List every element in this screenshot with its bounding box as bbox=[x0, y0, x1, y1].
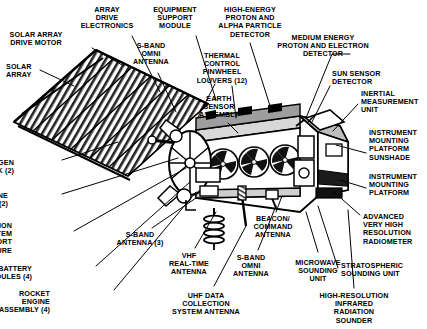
label-uhf-data-collection-system-antenna: UHF DATA COLLECTION SYSTEM ANTENNA bbox=[172, 292, 240, 317]
label-s-band-omni-antenna-top: S-BAND OMNI ANTENNA bbox=[133, 42, 169, 67]
label-s-band-antenna-3: S-BAND ANTENNA (3) bbox=[117, 231, 164, 247]
label-rocket-engine-assembly: ROCKET ENGINE ASSEMBLY (4) bbox=[0, 290, 50, 315]
label-hydrazine-tank: HYDRAZINE TANK (2) bbox=[0, 192, 8, 208]
leader-high-energy-proton bbox=[250, 43, 272, 112]
label-solar-array-drive-motor: SOLAR ARRAY DRIVE MOTOR bbox=[10, 31, 63, 47]
label-reaction-system-support-structure: REACTION SYSTEM SUPPORT STRUCTURE bbox=[0, 222, 12, 255]
label-sun-sensor-detector: SUN SENSOR DETECTOR bbox=[332, 70, 381, 86]
leader-avhrr bbox=[334, 192, 360, 215]
leader-s-band-3 bbox=[152, 198, 196, 228]
vhf-real-time-antenna-helix bbox=[204, 208, 224, 250]
label-earth-sensor-assembly: EARTH SENSOR ASSEMBLY bbox=[199, 95, 239, 120]
label-solar-array: SOLAR ARRAY bbox=[6, 63, 32, 79]
label-battery-modules: BATTERY MODULES (4) bbox=[0, 265, 32, 281]
label-instrument-mounting-platform: INSTRUMENT MOUNTING PLATFORM bbox=[369, 173, 417, 198]
label-medium-energy-proton-electron-detector: MEDIUM ENERGY PROTON AND ELECTRON DETECT… bbox=[277, 34, 368, 59]
label-high-energy-proton-alpha-particle-detector: HIGH-ENERGY PROTON AND ALPHA PARTICLE DE… bbox=[218, 6, 281, 39]
label-microwave-sounding-unit: MICROWAVE SOUNDING UNIT bbox=[295, 259, 341, 284]
label-advanced-very-high-resolution-radiometer: ADVANCED VERY HIGH RESOLUTION RADIOMETER bbox=[363, 213, 412, 246]
label-nitrogen-tank: NITROGEN TANK (2) bbox=[0, 159, 14, 175]
satellite-diagram: SOLAR ARRAY DRIVE MOTORARRAY DRIVE ELECT… bbox=[0, 0, 427, 329]
label-equipment-support-module: EQUIPMENT SUPPORT MODULE bbox=[153, 6, 197, 31]
label-beacon-command-antenna: BEACON/ COMMAND ANTENNA bbox=[253, 215, 292, 240]
leader-msu bbox=[306, 212, 318, 252]
label-stratospheric-sounding-unit: STRATOSPHERIC SOUNDING UNIT bbox=[341, 262, 403, 278]
label-thermal-control-pinwheel-louvers: THERMAL CONTROL PINWHEEL LOUVERS (12) bbox=[197, 52, 248, 85]
label-high-resolution-infrared-radiation-sounder: HIGH-RESOLUTION INFRARED RADIATION SOUND… bbox=[320, 292, 389, 325]
label-instrument-mounting-platform-sunshade: INSTRUMENT MOUNTING PLATFORM SUNSHADE bbox=[369, 129, 417, 162]
label-inertial-measurement-unit: INERTIAL MEASUREMENT UNIT bbox=[361, 90, 418, 115]
label-vhf-real-time-antenna: VHF REAL-TIME ANTENNA bbox=[169, 252, 209, 277]
label-s-band-omni-antenna-bottom: S-BAND OMNI ANTENNA bbox=[233, 254, 269, 279]
label-array-drive-electronics: ARRAY DRIVE ELECTRONICS bbox=[81, 6, 134, 31]
